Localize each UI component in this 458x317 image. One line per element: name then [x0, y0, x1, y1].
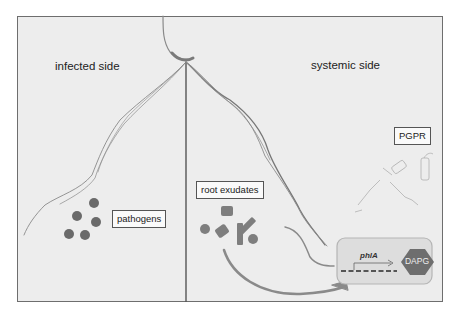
diagram-artwork — [0, 0, 458, 317]
exudate-shape — [248, 234, 258, 244]
pgpr-bacteria — [355, 153, 433, 212]
pathogen-cell — [64, 229, 74, 239]
root-exudates-cluster — [200, 206, 258, 245]
pathogen-cell — [80, 230, 90, 240]
systemic-side-label: systemic side — [311, 59, 380, 71]
pathogen-cell — [89, 198, 99, 208]
exudate-shape — [237, 223, 243, 245]
pathogens-cluster — [64, 198, 101, 240]
pathogen-cell — [91, 217, 101, 227]
infected-side-label: infected side — [55, 60, 120, 72]
exudate-shape — [200, 224, 210, 234]
pgpr-label: PGPR — [394, 127, 431, 145]
dapg-label: DAPG — [400, 256, 434, 266]
root-exudates-label: root exudates — [196, 181, 264, 199]
exudate-shape — [221, 206, 233, 216]
gene-label: phlA — [360, 251, 378, 260]
exudate-shape — [214, 223, 230, 238]
pathogen-cell — [72, 211, 82, 221]
plant-root — [24, 16, 327, 246]
pathogens-label: pathogens — [112, 210, 166, 228]
